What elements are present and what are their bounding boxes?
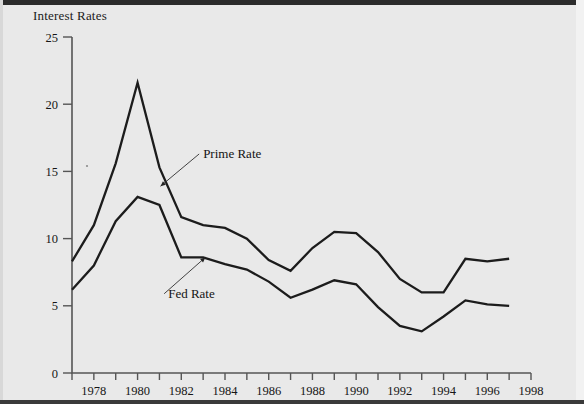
y-tick-label: 20 — [46, 98, 59, 112]
x-tick-label: 1984 — [213, 384, 239, 398]
series-group — [72, 83, 509, 332]
y-tick-label: 0 — [52, 367, 58, 381]
y-tick-label: 10 — [46, 232, 59, 246]
prime-rate-label-leader — [161, 154, 200, 186]
y-axis-ticks: 0510152025 — [46, 31, 73, 381]
axis-lines — [72, 37, 531, 373]
x-tick-label: 1996 — [475, 384, 500, 398]
x-tick-label: 1994 — [431, 384, 457, 398]
y-tick-label: 25 — [46, 31, 59, 45]
y-tick-label: 5 — [52, 299, 58, 313]
x-tick-label: 1982 — [169, 384, 194, 398]
x-tick-label: 1998 — [519, 384, 544, 398]
figure-page: Interest Rates 0510152025 19781980198219… — [0, 0, 584, 404]
x-tick-label: 1986 — [256, 384, 281, 398]
x-tick-label: 1978 — [81, 384, 106, 398]
scan-speck — [86, 165, 88, 167]
x-tick-label: 1988 — [300, 384, 325, 398]
x-tick-label: 1990 — [344, 384, 369, 398]
y-tick-label: 15 — [46, 165, 59, 179]
line-chart: 0510152025 19781980198219841986198819901… — [0, 0, 584, 404]
series-line-prime-rate — [72, 83, 509, 293]
series-line-fed-rate — [72, 197, 509, 331]
prime-rate-label: Prime Rate — [203, 146, 261, 161]
x-tick-label: 1992 — [387, 384, 412, 398]
fed-rate-label: Fed Rate — [168, 286, 215, 301]
x-axis-ticks: 1978198019821984198619881990199219941996… — [72, 373, 544, 398]
annotation-group: Prime RateFed Rate — [161, 146, 262, 301]
x-tick-label: 1980 — [125, 384, 150, 398]
